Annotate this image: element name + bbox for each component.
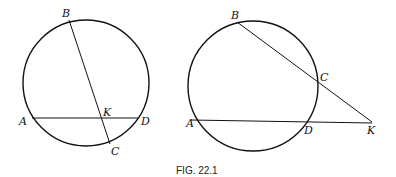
right-circle [188, 21, 318, 151]
chord-bc [69, 20, 110, 144]
label-a: A [18, 115, 27, 128]
label-k: K [102, 106, 112, 119]
label-d: D [140, 115, 150, 128]
label-c: C [111, 145, 120, 158]
label-d: D [303, 124, 313, 137]
label-b: B [61, 7, 70, 20]
left-circle [23, 20, 149, 146]
figure-caption: FIG. 22.1 [176, 165, 218, 176]
secant-kb [237, 22, 372, 122]
figure-canvas: B A D K C B C A D K FIG. 22.1 [0, 0, 396, 177]
left-figure: B A D K C [18, 7, 150, 158]
label-a: A [185, 117, 194, 130]
label-c: C [320, 71, 329, 84]
label-k: K [366, 124, 376, 137]
secant-ka [191, 120, 372, 123]
right-figure: B C A D K [185, 9, 376, 151]
label-b: B [230, 9, 239, 22]
